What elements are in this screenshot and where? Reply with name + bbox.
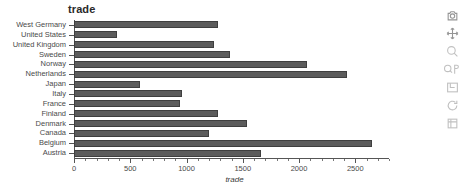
y-axis-tick-mark: [69, 133, 74, 134]
x-axis-minor-tick: [220, 159, 221, 161]
bar-fill: [74, 81, 140, 88]
y-axis-tick-label: Norway: [0, 60, 66, 68]
autoscale-icon[interactable]: [444, 80, 460, 95]
y-axis-tick-mark: [69, 94, 74, 95]
x-axis-minor-tick: [389, 159, 390, 161]
bar-fill: [74, 21, 218, 28]
y-axis-tick-label: Italy: [0, 90, 66, 98]
bar-fill: [74, 31, 117, 38]
x-axis-minor-tick: [277, 159, 278, 161]
y-axis-tick-mark: [69, 64, 74, 65]
bar[interactable]: [74, 130, 209, 137]
y-axis-tick-label: Sweden: [0, 51, 66, 59]
x-axis-minor-tick: [153, 159, 154, 161]
zoom-icon[interactable]: [444, 44, 460, 59]
x-axis-tick-label: 2000: [291, 164, 308, 173]
plot-area[interactable]: [74, 20, 389, 158]
x-axis-minor-tick: [254, 159, 255, 161]
x-axis-title: trade: [0, 175, 469, 184]
bar[interactable]: [74, 41, 214, 48]
x-axis-minor-tick: [97, 159, 98, 161]
bar-fill: [74, 110, 218, 117]
bar[interactable]: [74, 81, 140, 88]
y-axis-tick-label: Belgium: [0, 139, 66, 147]
y-axis-tick-label: Denmark: [0, 120, 66, 128]
reset-axes-icon[interactable]: [444, 98, 460, 113]
x-axis-minor-tick: [108, 159, 109, 161]
bar-fill: [74, 140, 372, 147]
bar[interactable]: [74, 51, 230, 58]
zoom-in-out-icon[interactable]: [444, 62, 460, 77]
chart-title: trade: [68, 3, 95, 15]
x-axis-minor-tick: [367, 159, 368, 161]
bar-fill: [74, 100, 180, 107]
x-axis-minor-tick: [265, 159, 266, 161]
y-axis-tick-label: Netherlands: [0, 70, 66, 78]
download-plot-icon[interactable]: [444, 8, 460, 23]
y-axis-tick-label: Austria: [0, 149, 66, 157]
bar[interactable]: [74, 120, 247, 127]
bar[interactable]: [74, 140, 372, 147]
x-axis-minor-tick: [333, 159, 334, 161]
chart-container: trade West GermanyUnited StatesUnited Ki…: [0, 0, 469, 189]
bar[interactable]: [74, 100, 180, 107]
y-axis-tick-mark: [69, 55, 74, 56]
x-axis-minor-tick: [175, 159, 176, 161]
bar-fill: [74, 130, 209, 137]
x-axis-minor-tick: [142, 159, 143, 161]
bar[interactable]: [74, 150, 261, 157]
y-axis-tick-label: United Kingdom: [0, 41, 66, 49]
y-axis-tick-mark: [69, 25, 74, 26]
x-axis-tick-mark: [243, 159, 244, 163]
bar[interactable]: [74, 61, 307, 68]
y-axis-tick-mark: [69, 104, 74, 105]
bar[interactable]: [74, 21, 218, 28]
x-axis-minor-tick: [288, 159, 289, 161]
x-axis-minor-tick: [310, 159, 311, 161]
y-axis-tick-label: United States: [0, 31, 66, 39]
y-axis-tick-mark: [69, 153, 74, 154]
x-axis-tick-label: 1500: [234, 164, 251, 173]
x-axis-minor-tick: [198, 159, 199, 161]
y-axis-tick-mark: [69, 74, 74, 75]
y-axis-tick-mark: [69, 114, 74, 115]
y-axis-tick-mark: [69, 45, 74, 46]
x-axis-minor-tick: [119, 159, 120, 161]
y-axis-tick-mark: [69, 143, 74, 144]
bar[interactable]: [74, 71, 347, 78]
y-axis-tick-label: West Germany: [0, 21, 66, 29]
toggle-spike-lines-icon[interactable]: [444, 116, 460, 131]
bar-fill: [74, 61, 307, 68]
x-axis-tick-mark: [130, 159, 131, 163]
bar-fill: [74, 41, 214, 48]
x-axis-minor-tick: [344, 159, 345, 161]
bar[interactable]: [74, 110, 218, 117]
bar-fill: [74, 120, 247, 127]
y-axis-tick-mark: [69, 84, 74, 85]
x-axis-tick-label: 0: [72, 164, 76, 173]
x-axis-minor-tick: [322, 159, 323, 161]
x-axis-minor-tick: [232, 159, 233, 161]
bar[interactable]: [74, 31, 117, 38]
modebar[interactable]: [439, 8, 465, 131]
x-axis-tick-mark: [299, 159, 300, 163]
pan-icon[interactable]: [444, 26, 460, 41]
x-axis-minor-tick: [378, 159, 379, 161]
x-axis-minor-tick: [209, 159, 210, 161]
x-axis-tick-mark: [74, 159, 75, 163]
x-axis-tick-mark: [355, 159, 356, 163]
bar-fill: [74, 51, 230, 58]
y-axis-tick-label: Japan: [0, 80, 66, 88]
y-axis-tick-label: Canada: [0, 129, 66, 137]
bar-fill: [74, 71, 347, 78]
x-axis-tick-label: 2500: [347, 164, 364, 173]
bar-fill: [74, 150, 261, 157]
x-axis-tick-mark: [187, 159, 188, 163]
bar-fill: [74, 90, 182, 97]
y-axis-tick-label: Finland: [0, 110, 66, 118]
x-axis-minor-tick: [85, 159, 86, 161]
bar[interactable]: [74, 90, 182, 97]
x-axis-minor-tick: [164, 159, 165, 161]
x-axis-tick-label: 500: [124, 164, 137, 173]
y-axis-tick-label: France: [0, 100, 66, 108]
